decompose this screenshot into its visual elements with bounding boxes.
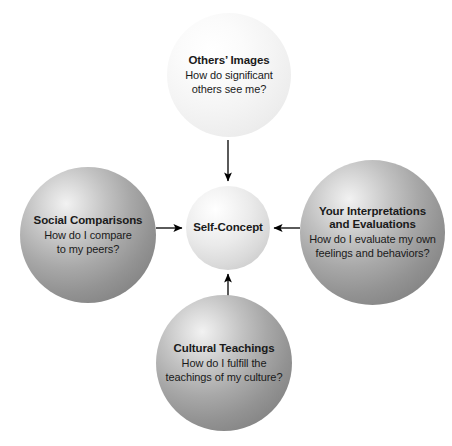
node-your-interpretations-and-evaluations[interactable]: Your Interpretations and Evaluations How… <box>300 160 445 305</box>
node-title-line-2: and Evaluations <box>329 218 416 232</box>
node-title: Self-Concept <box>193 221 263 235</box>
node-title: Others’ Images <box>188 54 269 68</box>
node-title: Cultural Teachings <box>174 342 275 356</box>
node-self-concept[interactable]: Self-Concept <box>186 186 270 270</box>
node-body-line-1: How do I evaluate my own <box>309 233 436 246</box>
node-body-line-2: teachings of my culture? <box>166 371 283 384</box>
node-title: Social Comparisons <box>34 214 143 228</box>
node-title-line-1: Your Interpretations <box>319 205 426 219</box>
node-body-line-2: to my peers? <box>57 243 119 256</box>
node-others-images[interactable]: Others’ Images How do significant others… <box>167 13 291 137</box>
node-body-line-1: How do I fulfill the <box>182 357 267 370</box>
node-body-line-2: others see me? <box>192 83 266 96</box>
node-body-line-2: feelings and behaviors? <box>316 247 430 260</box>
node-body-line-1: How do significant <box>185 69 272 82</box>
node-social-comparisons[interactable]: Social Comparisons How do I compare to m… <box>20 167 156 303</box>
node-cultural-teachings[interactable]: Cultural Teachings How do I fulfill the … <box>156 295 292 431</box>
node-body-line-1: How do I compare <box>44 229 132 242</box>
self-concept-diagram: Others’ Images How do significant others… <box>0 0 452 446</box>
